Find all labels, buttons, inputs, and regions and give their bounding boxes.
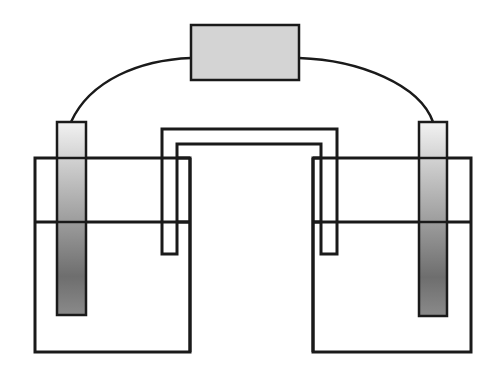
electrochemical-cell-diagram xyxy=(0,0,497,380)
left-wire xyxy=(71,58,191,122)
right-wire xyxy=(299,58,433,122)
right-electrode xyxy=(419,122,447,316)
left-electrode xyxy=(57,122,86,315)
salt-bridge xyxy=(162,129,337,254)
meter-box xyxy=(191,25,299,80)
